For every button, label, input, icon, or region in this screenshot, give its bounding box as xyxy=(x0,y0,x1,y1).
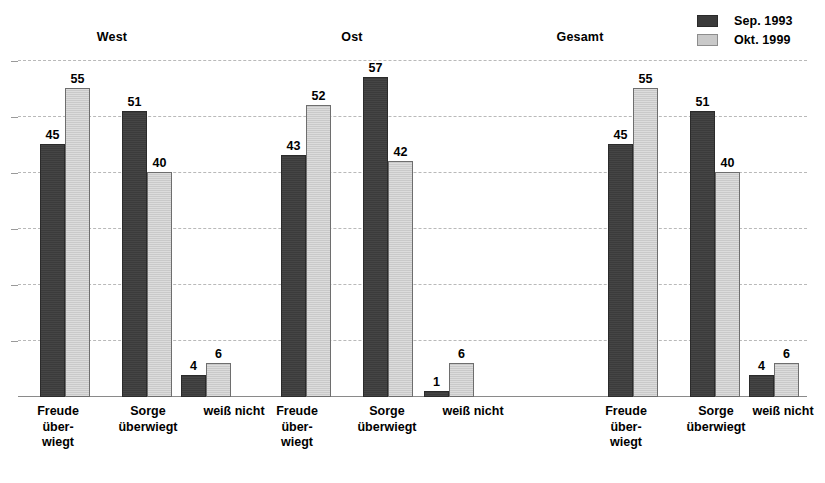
bar-value-label: 6 xyxy=(783,348,790,361)
bar-value-label: 51 xyxy=(696,96,710,109)
cat-label-gesamt-weiss: weiß nicht xyxy=(742,404,824,420)
legend-swatch-dark-icon xyxy=(697,15,718,27)
bar-value-label: 4 xyxy=(758,360,765,373)
bar-value-label: 1 xyxy=(433,376,440,389)
bar-value-label: 51 xyxy=(128,96,142,109)
bar-gesamt-0-series0: 45 xyxy=(608,144,633,397)
legend-item-okt-1999: Okt. 1999 xyxy=(697,33,793,47)
bar-gesamt-2-series0: 4 xyxy=(749,375,774,397)
bar-ost-0-series1: 52 xyxy=(306,105,331,397)
bars-container: 455551404643525742164555514046 xyxy=(18,60,807,397)
cat-label-ost-freude: Freude über- wiegt xyxy=(249,404,345,451)
bar-west-2-series1: 6 xyxy=(206,363,231,397)
tick-10 xyxy=(11,341,18,342)
cat-label-gesamt-freude: Freude über- wiegt xyxy=(578,404,674,451)
bar-ost-1-series0: 57 xyxy=(363,77,388,397)
chart-legend: Sep. 1993 Okt. 1999 xyxy=(697,14,793,47)
group-title-gesamt: Gesamt xyxy=(490,30,670,44)
cat-label-ost-weiss: weiß nicht xyxy=(425,404,521,420)
bar-value-label: 43 xyxy=(287,140,301,153)
bar-value-label: 55 xyxy=(71,73,85,86)
bar-west-0-series0: 45 xyxy=(40,144,65,397)
bar-ost-0-series0: 43 xyxy=(281,155,306,397)
cat-label-west-freude: Freude über- wiegt xyxy=(10,404,106,451)
group-title-west: West xyxy=(22,30,202,44)
bar-ost-2-series1: 6 xyxy=(449,363,474,397)
bar-value-label: 6 xyxy=(458,348,465,361)
legend-swatch-light-icon xyxy=(697,34,718,46)
bar-value-label: 57 xyxy=(369,62,383,75)
bar-west-1-series0: 51 xyxy=(122,111,147,397)
bar-value-label: 52 xyxy=(312,90,326,103)
bar-value-label: 42 xyxy=(394,146,408,159)
bar-value-label: 45 xyxy=(46,129,60,142)
bar-west-1-series1: 40 xyxy=(147,172,172,397)
bar-gesamt-1-series1: 40 xyxy=(715,172,740,397)
cat-label-west-sorge: Sorge überwiegt xyxy=(100,404,196,435)
bar-value-label: 6 xyxy=(215,348,222,361)
bar-value-label: 4 xyxy=(190,360,197,373)
legend-label-okt-1999: Okt. 1999 xyxy=(734,34,791,47)
bar-value-label: 40 xyxy=(721,157,735,170)
bar-gesamt-0-series1: 55 xyxy=(633,88,658,397)
bar-value-label: 45 xyxy=(614,129,628,142)
bar-ost-2-series0: 1 xyxy=(424,391,449,397)
bar-value-label: 55 xyxy=(639,73,653,86)
group-title-ost: Ost xyxy=(262,30,442,44)
bar-value-label: 40 xyxy=(153,157,167,170)
tick-20 xyxy=(11,285,18,286)
chart-page: Sep. 1993 Okt. 1999 West Ost Gesamt 4555… xyxy=(0,0,825,483)
bar-ost-1-series1: 42 xyxy=(388,161,413,397)
tick-60 xyxy=(11,61,18,62)
tick-50 xyxy=(11,117,18,118)
tick-30 xyxy=(11,229,18,230)
bar-west-0-series1: 55 xyxy=(65,88,90,397)
bar-gesamt-1-series0: 51 xyxy=(690,111,715,397)
bar-gesamt-2-series1: 6 xyxy=(774,363,799,397)
cropped-caption-remnant xyxy=(22,472,722,479)
cat-label-ost-sorge: Sorge überwiegt xyxy=(339,404,435,435)
legend-label-sep-1993: Sep. 1993 xyxy=(734,15,793,28)
bar-west-2-series0: 4 xyxy=(181,375,206,397)
tick-40 xyxy=(11,173,18,174)
legend-item-sep-1993: Sep. 1993 xyxy=(697,14,793,28)
